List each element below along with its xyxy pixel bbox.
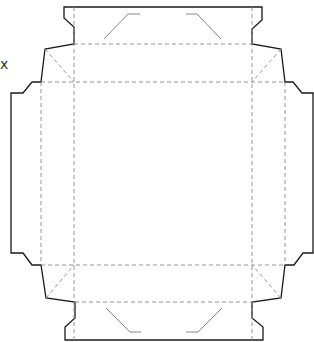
lock-line-bottom-right	[186, 308, 222, 332]
corner-fold-top-right	[252, 49, 281, 82]
lock-line-top-left	[104, 14, 140, 39]
lock-line-top-right	[186, 14, 221, 39]
box-dieline-diagram	[0, 0, 314, 342]
corner-fold-bottom-right	[252, 265, 281, 298]
corner-fold-bottom-left	[46, 265, 74, 298]
corner-fold-top-left	[45, 49, 74, 82]
lock-line-bottom-left	[106, 308, 141, 332]
cut-outline	[11, 7, 313, 340]
